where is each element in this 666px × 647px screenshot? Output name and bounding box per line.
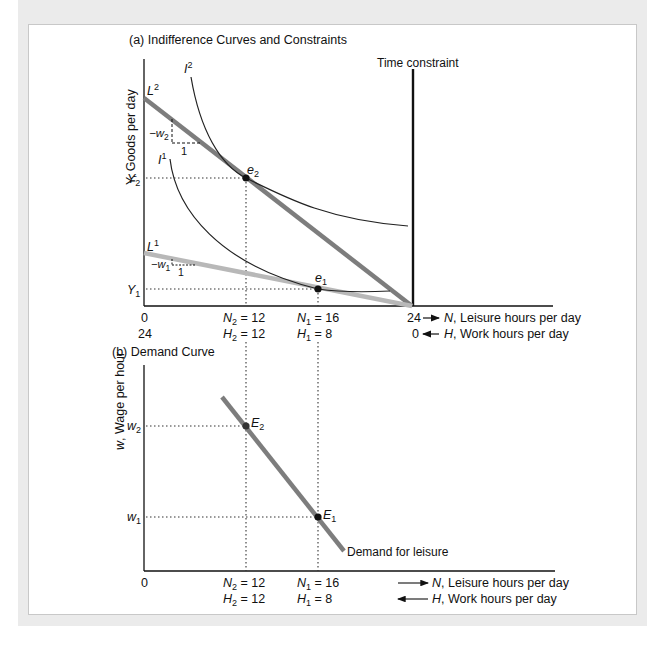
label-e2: e2: [247, 163, 259, 179]
label-L1: L1: [147, 238, 159, 254]
label-I2: I2: [184, 60, 193, 76]
label-run-1-a: 1: [181, 145, 187, 157]
point-E1: [314, 513, 321, 520]
label-E2: E2: [251, 416, 264, 432]
x-axis-label-N: N, Leisure hours per day: [444, 311, 582, 325]
y-tick-w1: w1: [127, 510, 141, 526]
demand-label: Demand for leisure: [347, 545, 449, 559]
indifference-curve-I2: [191, 77, 408, 226]
x-origin-N: 0: [141, 311, 148, 325]
x-axis-label-N-b: N, Leisure hours per day: [432, 576, 570, 590]
demand-curve: [222, 397, 344, 551]
x-tick-N1-b: N1 = 16: [297, 576, 339, 592]
y-axis-label: Y, Goods per day: [124, 89, 138, 185]
label-I1: I1: [158, 151, 167, 167]
x-tick-H2: H2 = 12: [223, 327, 265, 343]
panel-b: (b) Demand Curve w, Wage per hour E2 E1 …: [112, 342, 570, 608]
x-tick-H1-b: H1 = 8: [297, 592, 332, 608]
dotted-guides-b: [146, 342, 318, 571]
x-tick-N2: N2 = 12: [223, 311, 265, 327]
x-origin-H: 24: [138, 327, 152, 341]
label-minus-w1: −w1: [151, 258, 170, 273]
y-axis-label-b: w, Wage per hour: [113, 352, 127, 450]
point-e1: [314, 285, 321, 292]
panel-b-title: (b) Demand Curve: [112, 345, 215, 359]
y-tick-Y1: Y1: [127, 283, 140, 299]
indifference-curve-I1: [170, 159, 390, 292]
x-end-N: 24: [407, 311, 421, 325]
y-tick-Y2: Y2: [127, 172, 140, 188]
panel-a-title: (a) Indifference Curves and Constraints: [129, 33, 347, 47]
point-E2: [242, 422, 249, 429]
x-tick-H1: H1 = 8: [297, 327, 332, 343]
dotted-guides: [146, 178, 318, 306]
label-minus-w2: −w2: [149, 127, 169, 142]
label-e1: e1: [315, 271, 327, 287]
x-tick-N2-b: N2 = 12: [223, 576, 265, 592]
label-E1: E1: [323, 508, 336, 524]
label-run-1-b: 1: [178, 266, 184, 278]
label-L2: L2: [147, 82, 159, 98]
figure-svg: (a) Indifference Curves and Constraints …: [0, 0, 666, 647]
budget-line-L1: [144, 253, 412, 306]
y-tick-w2: w2: [127, 419, 141, 435]
x-origin-b: 0: [141, 576, 148, 590]
panel-a: (a) Indifference Curves and Constraints …: [124, 33, 582, 343]
x-tick-N1: N1 = 16: [297, 311, 339, 327]
x-axis-label-H-b: H, Work hours per day: [432, 592, 558, 606]
x-tick-H2-b: H2 = 12: [223, 592, 265, 608]
x-end-H: 0: [412, 327, 419, 341]
x-axis-label-H: H, Work hours per day: [444, 327, 570, 341]
time-constraint-label: Time constraint: [377, 56, 459, 70]
